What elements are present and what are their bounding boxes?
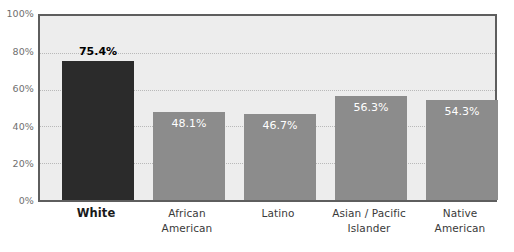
x-label-asian-pacific-islander: Asian / Pacific Islander <box>314 206 424 235</box>
y-tick-label: 80% <box>0 47 34 57</box>
x-label-line: Islander <box>314 221 424 236</box>
x-label-latino: Latino <box>228 206 328 221</box>
x-label-line: White <box>46 206 146 221</box>
bar-chart: 100% 80% 60% 40% 20% 0% 75.4% 48.1% <box>0 0 514 252</box>
bar-african-american[interactable]: 48.1% <box>153 112 225 201</box>
x-label-line: American <box>137 221 237 236</box>
bar-value-label: 56.3% <box>335 102 407 114</box>
bar-asian-pacific-islander[interactable]: 56.3% <box>335 96 407 200</box>
x-label-line: Latino <box>228 206 328 221</box>
bar-rect <box>62 61 134 200</box>
y-tick-label: 100% <box>0 9 34 19</box>
x-axis: White African American Latino Asian / Pa… <box>38 206 497 252</box>
plot-inner: 75.4% 48.1% 46.7% 56.3% 54.3% <box>40 16 495 200</box>
x-label-line: African <box>137 206 237 221</box>
x-label-line: Native <box>410 206 510 221</box>
bar-value-label: 75.4% <box>62 46 134 58</box>
y-tick-label: 60% <box>0 84 34 94</box>
y-tick-label: 40% <box>0 122 34 132</box>
bar-latino[interactable]: 46.7% <box>244 114 316 200</box>
bar-native-american[interactable]: 54.3% <box>426 100 498 200</box>
bar-value-label: 46.7% <box>244 120 316 132</box>
bar-value-label: 54.3% <box>426 106 498 118</box>
bar-value-label: 48.1% <box>153 118 225 130</box>
bars-layer: 75.4% 48.1% 46.7% 56.3% 54.3% <box>40 16 495 200</box>
y-axis: 100% 80% 60% 40% 20% 0% <box>0 0 34 252</box>
x-label-african-american: African American <box>137 206 237 235</box>
x-label-white: White <box>46 206 146 221</box>
bar-white[interactable]: 75.4% <box>62 61 134 200</box>
y-tick-label: 20% <box>0 159 34 169</box>
x-label-line: Asian / Pacific <box>314 206 424 221</box>
x-label-line: American <box>410 221 510 236</box>
plot-area: 75.4% 48.1% 46.7% 56.3% 54.3% <box>38 14 497 202</box>
x-label-native-american: Native American <box>410 206 510 235</box>
y-tick-label: 0% <box>0 196 34 206</box>
